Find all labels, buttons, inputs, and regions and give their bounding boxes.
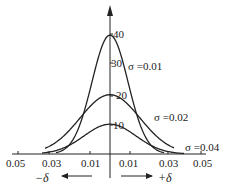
label-sigma-0.01: σ =0.01 bbox=[128, 60, 162, 72]
normal-distribution-chart: 10 20 30 40 0.05 0.03 0.01 0.01 0.03 0.0… bbox=[0, 0, 226, 191]
x-tick-label: 0.05 bbox=[6, 157, 26, 169]
y-tick-label: 30 bbox=[111, 57, 123, 69]
y-axis-arrow-icon bbox=[107, 5, 113, 16]
x-tick-label: 0.03 bbox=[42, 157, 62, 169]
x-tick-label: 0.01 bbox=[81, 157, 100, 169]
minus-delta-label: −δ bbox=[35, 171, 49, 185]
x-tick-label: 0.03 bbox=[159, 157, 179, 169]
plus-delta-label: +δ bbox=[158, 171, 172, 185]
label-sigma-0.04: σ =0.04 bbox=[185, 141, 220, 153]
x-tick-label: 0.05 bbox=[193, 157, 213, 169]
x-tick-label: 0.01 bbox=[119, 157, 138, 169]
label-sigma-0.02: σ =0.02 bbox=[154, 111, 188, 123]
